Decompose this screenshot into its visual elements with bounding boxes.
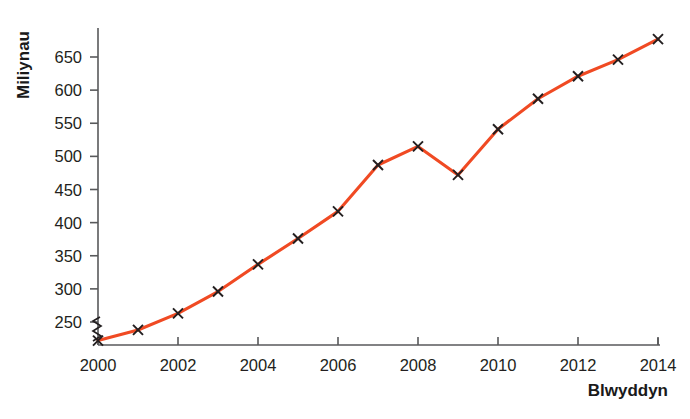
data-point-marker bbox=[253, 259, 263, 269]
data-point-marker bbox=[653, 34, 663, 44]
x-axis-ticks: 20002002200420062008201020122014 bbox=[80, 337, 677, 374]
data-point-marker bbox=[533, 94, 543, 104]
x-tick-label: 2004 bbox=[240, 356, 277, 374]
x-tick-label: 2002 bbox=[160, 356, 197, 374]
data-point-marker bbox=[333, 206, 343, 216]
y-tick-label: 350 bbox=[54, 247, 82, 265]
x-tick-label: 2000 bbox=[80, 356, 117, 374]
x-tick-label: 2006 bbox=[320, 356, 357, 374]
y-tick-label: 500 bbox=[54, 147, 82, 165]
y-tick-label: 400 bbox=[54, 214, 82, 232]
x-tick-label: 2012 bbox=[560, 356, 597, 374]
y-axis-ticks: 250300350400450500550600650 bbox=[54, 48, 98, 331]
data-series-line bbox=[98, 39, 658, 340]
data-point-marker bbox=[213, 287, 223, 297]
x-axis-title: Blwyddyn bbox=[588, 381, 668, 401]
data-point-marker bbox=[453, 170, 463, 180]
data-point-markers bbox=[93, 34, 663, 345]
data-point-marker bbox=[293, 234, 303, 244]
y-tick-label: 450 bbox=[54, 181, 82, 199]
x-tick-label: 2008 bbox=[400, 356, 437, 374]
y-axis-title: Miliynau bbox=[14, 20, 34, 110]
x-tick-label: 2014 bbox=[640, 356, 677, 374]
x-tick-label: 2010 bbox=[480, 356, 517, 374]
line-chart: 250300350400450500550600650 200020022004… bbox=[0, 0, 690, 419]
y-tick-label: 250 bbox=[54, 313, 82, 331]
data-point-marker bbox=[493, 124, 503, 134]
y-tick-label: 300 bbox=[54, 280, 82, 298]
chart-plot-area: 250300350400450500550600650 200020022004… bbox=[0, 0, 690, 419]
y-tick-label: 550 bbox=[54, 114, 82, 132]
y-tick-label: 600 bbox=[54, 81, 82, 99]
y-tick-label: 650 bbox=[54, 48, 82, 66]
